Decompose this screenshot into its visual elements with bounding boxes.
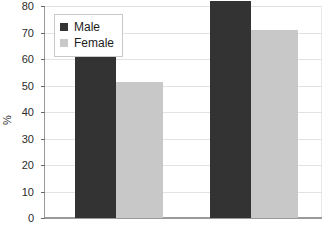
- y-tick-mark-20: [41, 165, 45, 166]
- y-tick-label-80: 80: [0, 1, 34, 12]
- y-tick-mark-80: [41, 6, 45, 7]
- bar-female-group-2[interactable]: [251, 30, 298, 218]
- y-tick-label-60: 60: [0, 54, 34, 65]
- chart-legend: Male Female: [54, 14, 123, 57]
- gridline-0: [45, 218, 322, 219]
- legend-swatch-female: [60, 39, 68, 47]
- y-axis-title: %: [1, 115, 13, 125]
- bar-female-group-1[interactable]: [116, 82, 163, 218]
- legend-swatch-male: [60, 23, 68, 31]
- y-tick-mark-40: [41, 112, 45, 113]
- y-tick-label-70: 70: [0, 28, 34, 39]
- y-tick-mark-30: [41, 139, 45, 140]
- legend-item-female[interactable]: Female: [60, 35, 114, 51]
- legend-item-male[interactable]: Male: [60, 19, 114, 35]
- y-tick-label-0: 0: [0, 213, 34, 224]
- y-tick-mark-50: [41, 86, 45, 87]
- y-tick-mark-70: [41, 33, 45, 34]
- legend-label-male: Male: [74, 21, 100, 33]
- legend-label-female: Female: [74, 37, 114, 49]
- bar-male-group-2[interactable]: [210, 1, 251, 218]
- bar-male-group-1[interactable]: [75, 56, 116, 218]
- bar-chart: 80706050403020100 % Male Female: [0, 0, 336, 234]
- y-tick-mark-60: [41, 59, 45, 60]
- y-tick-mark-0: [41, 218, 45, 219]
- y-tick-mark-10: [41, 192, 45, 193]
- y-tick-label-50: 50: [0, 81, 34, 92]
- gridline-80: [45, 6, 322, 7]
- y-tick-label-10: 10: [0, 187, 34, 198]
- y-tick-label-30: 30: [0, 134, 34, 145]
- y-tick-label-20: 20: [0, 160, 34, 171]
